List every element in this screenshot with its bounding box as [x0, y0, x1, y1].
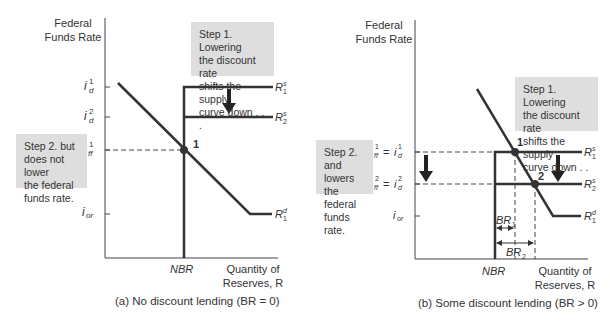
- step1-a-line1: Step 1. Lowering: [199, 28, 266, 54]
- svg-text:d: d: [283, 207, 288, 214]
- svg-text:d: d: [398, 184, 403, 191]
- svg-text:2: 2: [592, 185, 596, 192]
- step2-box-a: Step 2. but does not lower the federal f…: [16, 134, 87, 188]
- x-axis-label-b-line2: Reserves, R: [530, 278, 600, 292]
- svg-text:1: 1: [375, 143, 379, 150]
- svg-text:R: R: [275, 208, 283, 220]
- y-axis-label-a-line1: Federal: [38, 16, 108, 30]
- svg-text:1: 1: [512, 221, 516, 228]
- step2-b-line4: funds rate.: [324, 211, 365, 237]
- step2-a-line1: Step 2. but: [24, 140, 79, 153]
- step1-a-line3: shifts the supply: [199, 80, 266, 106]
- step2-b-line1: Step 2. and: [324, 146, 365, 172]
- svg-text:1: 1: [89, 140, 94, 149]
- y-axis-label-b: Federal Funds Rate: [349, 18, 419, 46]
- y-axis-label-b-line2: Funds Rate: [349, 32, 419, 46]
- caption-b: (b) Some discount lending (BR > 0): [418, 297, 598, 309]
- svg-text:1: 1: [283, 215, 287, 222]
- svg-text:ff: ff: [374, 152, 379, 159]
- svg-text:ff: ff: [374, 184, 379, 191]
- step2-a-line4: funds rate.: [24, 192, 79, 205]
- svg-text:d: d: [398, 152, 403, 159]
- svg-text:R: R: [584, 210, 592, 222]
- step2-a-line3: the federal: [24, 179, 79, 192]
- step2-b-line2: lowers the: [324, 172, 365, 198]
- step1-box-a: Step 1. Lowering the discount rate shift…: [191, 22, 274, 76]
- svg-text:2: 2: [522, 253, 526, 260]
- step1-b-line1: Step 1. Lowering: [523, 83, 590, 109]
- step1-b-line4: curve down . . .: [523, 161, 590, 187]
- svg-text:2: 2: [283, 118, 287, 125]
- equilibrium-point-1-a: [180, 146, 188, 154]
- y-axis-label-b-line1: Federal: [349, 18, 419, 32]
- svg-text:BR: BR: [506, 246, 521, 258]
- step1-b-line2: the discount rate: [523, 109, 590, 135]
- equilibrium-point-1-b: [511, 148, 519, 156]
- x-axis-label-b-line1: Quantity of: [530, 264, 600, 278]
- x-axis-label-a: Quantity of Reserves, R: [218, 262, 288, 290]
- svg-text:d: d: [592, 209, 597, 216]
- svg-text:1: 1: [592, 217, 596, 224]
- svg-text:or: or: [86, 211, 93, 220]
- step2-a-line2: does not lower: [24, 153, 79, 179]
- svg-text:1: 1: [283, 88, 287, 95]
- svg-text:s: s: [283, 110, 287, 117]
- shift-down-arrow-icon-b-left: [419, 155, 433, 182]
- svg-text:2: 2: [89, 107, 94, 116]
- diagram-canvas: 1 id1 id2 iff1 ior R1s R2s R1d: [0, 0, 610, 325]
- step1-b-line3: shifts the supply: [523, 135, 590, 161]
- y-axis-label-a: Federal Funds Rate: [38, 16, 108, 44]
- nbr-label-b: NBR: [482, 264, 505, 278]
- svg-text:i: i: [393, 209, 396, 221]
- svg-text:BR: BR: [496, 214, 511, 226]
- svg-text:i: i: [394, 146, 397, 158]
- svg-text:i: i: [394, 178, 397, 190]
- nbr-label-a: NBR: [170, 262, 193, 276]
- x-axis-label-a-line2: Reserves, R: [218, 276, 288, 290]
- step1-box-b: Step 1. Lowering the discount rate shift…: [515, 77, 598, 131]
- svg-text:2: 2: [375, 175, 379, 182]
- step2-box-b: Step 2. and lowers the federal funds rat…: [316, 140, 373, 194]
- step2-b-line3: federal: [324, 198, 365, 211]
- x-axis-label-a-line1: Quantity of: [218, 262, 288, 276]
- caption-a: (a) No discount lending (BR = 0): [115, 295, 280, 307]
- svg-text:i: i: [84, 109, 87, 123]
- step1-a-line2: the discount rate: [199, 54, 266, 80]
- svg-text:=: =: [383, 178, 389, 190]
- svg-text:s: s: [592, 177, 596, 184]
- svg-text:=: =: [383, 146, 389, 158]
- svg-text:i: i: [84, 79, 87, 93]
- svg-text:1: 1: [592, 153, 596, 160]
- svg-text:1: 1: [89, 77, 94, 86]
- svg-text:1: 1: [398, 143, 402, 150]
- x-axis-label-b: Quantity of Reserves, R: [530, 264, 600, 292]
- step1-a-line4: curve down . . .: [199, 106, 266, 132]
- svg-text:R: R: [275, 111, 283, 123]
- svg-text:or: or: [397, 215, 404, 222]
- svg-text:R: R: [275, 81, 283, 93]
- svg-text:s: s: [592, 145, 596, 152]
- y-axis-label-a-line2: Funds Rate: [38, 30, 108, 44]
- svg-text:d: d: [89, 116, 94, 125]
- svg-text:ff: ff: [88, 149, 93, 158]
- point-label-1-a: 1: [193, 138, 199, 150]
- svg-text:2: 2: [398, 175, 402, 182]
- svg-text:s: s: [283, 80, 287, 87]
- svg-text:i: i: [82, 205, 85, 219]
- svg-text:d: d: [89, 86, 94, 95]
